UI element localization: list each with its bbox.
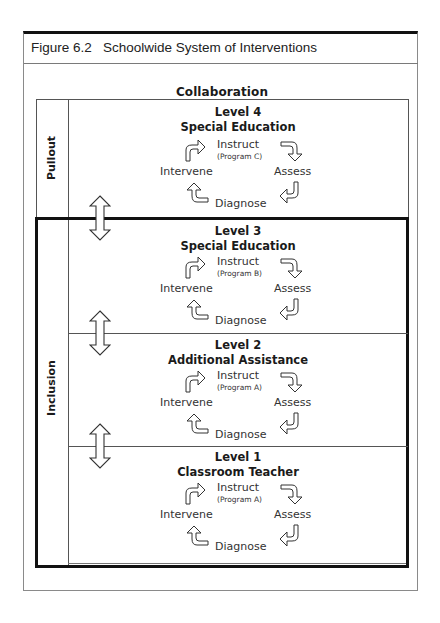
curved-arrow-up-right-icon bbox=[183, 138, 207, 162]
pullout-label: Pullout bbox=[45, 118, 59, 198]
curved-arrow-down-right-icon bbox=[280, 256, 304, 280]
curved-arrow-down-left-icon bbox=[278, 412, 302, 436]
program-label: (Program B) bbox=[217, 269, 262, 278]
curved-arrow-up-right-icon bbox=[183, 481, 207, 505]
inclusion-label: Inclusion bbox=[45, 348, 59, 428]
intervene-label: Intervene bbox=[160, 282, 213, 295]
instruct-label: Instruct bbox=[217, 138, 259, 151]
curved-arrow-down-right-icon bbox=[280, 482, 304, 506]
assess-label: Assess bbox=[274, 282, 311, 295]
level-1-cycle: Instruct (Program A) Intervene Assess Di… bbox=[68, 448, 408, 558]
program-label: (Program C) bbox=[217, 152, 262, 161]
assess-label: Assess bbox=[274, 165, 311, 178]
level-3-cycle: Instruct (Program B) Intervene Assess Di… bbox=[68, 222, 408, 332]
row-divider-3-2 bbox=[68, 333, 408, 334]
diagnose-label: Diagnose bbox=[215, 314, 266, 327]
curved-arrow-up-right-icon bbox=[183, 369, 207, 393]
curved-arrow-down-left-icon bbox=[278, 181, 302, 205]
intervene-label: Intervene bbox=[160, 396, 213, 409]
curved-arrow-up-left-icon bbox=[185, 412, 209, 436]
curved-arrow-up-right-icon bbox=[183, 255, 207, 279]
curved-arrow-down-left-icon bbox=[278, 524, 302, 548]
assess-label: Assess bbox=[274, 396, 311, 409]
intervene-label: Intervene bbox=[160, 508, 213, 521]
title-divider bbox=[24, 63, 418, 64]
figure-title: Figure 6.2 Schoolwide System of Interven… bbox=[31, 40, 317, 55]
row-divider-2-1 bbox=[68, 446, 408, 447]
instruct-label: Instruct bbox=[217, 481, 259, 494]
curved-arrow-up-left-icon bbox=[185, 181, 209, 205]
collaboration-label: Collaboration bbox=[36, 85, 408, 99]
curved-arrow-down-right-icon bbox=[280, 139, 304, 163]
program-label: (Program A) bbox=[217, 383, 262, 392]
intervene-label: Intervene bbox=[160, 165, 213, 178]
diagnose-label: Diagnose bbox=[215, 428, 266, 441]
diagnose-label: Diagnose bbox=[215, 540, 266, 553]
instruct-label: Instruct bbox=[217, 255, 259, 268]
level-2-cycle: Instruct (Program A) Intervene Assess Di… bbox=[68, 336, 408, 446]
curved-arrow-down-right-icon bbox=[280, 370, 304, 394]
bottom-inner-line bbox=[68, 563, 406, 564]
diagnose-label: Diagnose bbox=[215, 197, 266, 210]
curved-arrow-down-left-icon bbox=[278, 298, 302, 322]
program-label: (Program A) bbox=[217, 495, 262, 504]
curved-arrow-up-left-icon bbox=[185, 524, 209, 548]
curved-arrow-up-left-icon bbox=[185, 298, 209, 322]
assess-label: Assess bbox=[274, 508, 311, 521]
level-4-cycle: Instruct (Program C) Intervene Assess Di… bbox=[68, 105, 408, 215]
instruct-label: Instruct bbox=[217, 369, 259, 382]
